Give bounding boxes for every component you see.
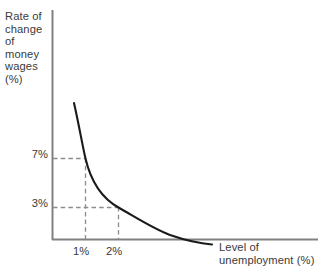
caption-partial-text bbox=[0, 271, 324, 280]
phillips-curve-line bbox=[74, 103, 212, 245]
y-tick-label-3pct: 3% bbox=[14, 197, 48, 209]
x-axis-title: Level of unemployment (%) bbox=[219, 241, 324, 266]
y-axis-title: Rate of change of money wages (%) bbox=[5, 10, 51, 86]
x-tick-label-1pct: 1% bbox=[66, 245, 96, 257]
phillips-curve-figure: Rate of change of money wages (%) Level … bbox=[0, 0, 324, 280]
y-tick-label-7pct: 7% bbox=[14, 148, 48, 160]
x-tick-label-2pct: 2% bbox=[99, 245, 129, 257]
